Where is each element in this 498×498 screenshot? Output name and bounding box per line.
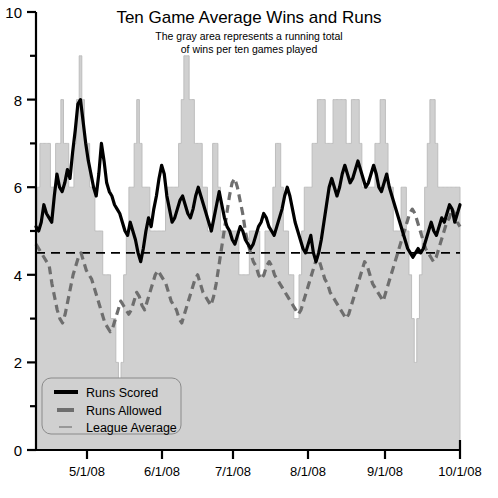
y-axis-tick-label: 0 — [14, 442, 22, 459]
x-axis-tick-label: 6/1/08 — [144, 464, 180, 479]
x-axis-tick-label: 10/1/08 — [438, 464, 481, 479]
chart-container: 0246810 5/1/086/1/087/1/088/1/089/1/0810… — [0, 0, 498, 498]
y-axis-tick-label: 4 — [14, 267, 22, 284]
y-axis-tick-label: 8 — [14, 92, 22, 109]
x-axis-tick-label: 7/1/08 — [215, 464, 251, 479]
x-axis-tick-label: 9/1/08 — [367, 464, 403, 479]
x-axis-tick-label: 8/1/08 — [290, 464, 326, 479]
y-axis-tick-label: 10 — [5, 4, 22, 21]
chart-title: Ten Game Average Wins and Runs — [116, 8, 381, 27]
legend-label-runs-scored[interactable]: Runs Scored — [86, 386, 158, 400]
y-axis-tick-label: 2 — [14, 354, 22, 371]
y-axis-tick-label: 6 — [14, 179, 22, 196]
ten-game-average-chart: 0246810 5/1/086/1/087/1/088/1/089/1/0810… — [0, 0, 498, 498]
chart-subtitle-line-2: of wins per ten games played — [181, 43, 318, 55]
chart-subtitle-line-1: The gray area represents a running total — [155, 30, 342, 42]
chart-legend[interactable]: Runs Scored Runs Allowed League Average — [42, 378, 181, 435]
x-axis-tick-label: 5/1/08 — [69, 464, 105, 479]
legend-label-league-average[interactable]: League Average — [86, 421, 177, 435]
legend-label-runs-allowed[interactable]: Runs Allowed — [86, 404, 162, 418]
